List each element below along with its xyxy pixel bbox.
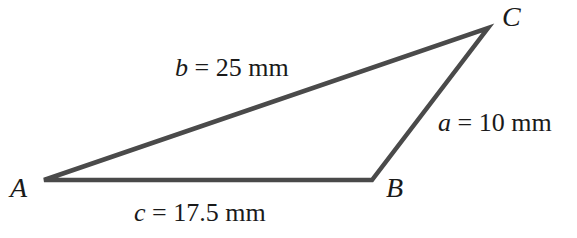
- triangle-shape: [44, 28, 488, 180]
- side-c-label: c = 17.5 mm: [134, 198, 266, 227]
- triangle-svg: A B C b = 25 mm a = 10 mm c = 17.5 mm: [0, 0, 577, 238]
- side-a-label: a = 10 mm: [438, 108, 552, 137]
- side-b-label: b = 25 mm: [175, 53, 289, 82]
- vertex-label-a: A: [8, 172, 28, 203]
- triangle-diagram: A B C b = 25 mm a = 10 mm c = 17.5 mm: [0, 0, 577, 238]
- vertex-label-b: B: [386, 172, 403, 203]
- vertex-label-c: C: [502, 1, 521, 32]
